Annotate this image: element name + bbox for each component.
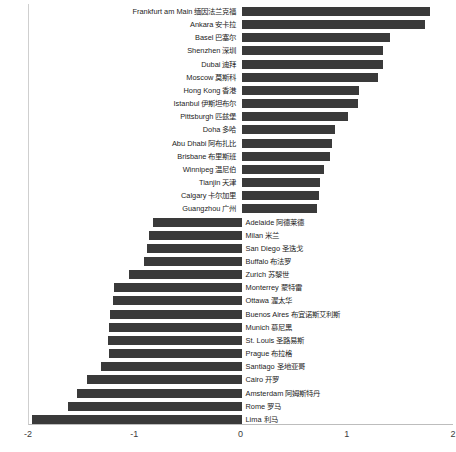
bar-row: Buffalo 布法罗 bbox=[29, 254, 453, 267]
bar bbox=[77, 389, 242, 398]
bar-row: Munich 慕尼黑 bbox=[29, 320, 453, 333]
bar bbox=[144, 257, 242, 266]
bar bbox=[109, 349, 242, 358]
bar-row: Basel 巴塞尔 bbox=[29, 30, 453, 43]
bar bbox=[242, 139, 332, 148]
plot-area: Frankfurt am Main 缅因法兰克福Ankara 安卡拉Basel … bbox=[28, 4, 453, 425]
x-tick-label: -1 bbox=[130, 429, 138, 439]
bar-row: Abu Dhabi 阿布扎比 bbox=[29, 136, 453, 149]
bar bbox=[242, 152, 330, 161]
bar-row: Cairo 开罗 bbox=[29, 372, 453, 385]
bar-row: Tianjin 天津 bbox=[29, 175, 453, 188]
bar bbox=[242, 112, 348, 121]
bar bbox=[108, 336, 242, 345]
bar-row: Frankfurt am Main 缅因法兰克福 bbox=[29, 4, 453, 17]
bar bbox=[242, 165, 325, 174]
bar bbox=[242, 46, 383, 55]
bar bbox=[242, 99, 359, 108]
bar-row: San Diego 圣迭戈 bbox=[29, 241, 453, 254]
bar-row: Doha 多哈 bbox=[29, 122, 453, 135]
bar bbox=[109, 323, 242, 332]
bar bbox=[242, 125, 336, 134]
bar-row: Zurich 苏黎世 bbox=[29, 267, 453, 280]
bar-row: Calgary 卡尔加里 bbox=[29, 188, 453, 201]
bar-row: Prague 布拉格 bbox=[29, 346, 453, 359]
bar-row: Monterrey 蒙特雷 bbox=[29, 280, 453, 293]
bar-row: Milan 米兰 bbox=[29, 228, 453, 241]
bar bbox=[242, 73, 378, 82]
bar-row: Buenos Aires 布宜诺斯艾利斯 bbox=[29, 307, 453, 320]
x-tick-label: -2 bbox=[24, 429, 32, 439]
bar-row: Lima 利马 bbox=[29, 412, 453, 425]
bar-row: Santiago 圣地亚哥 bbox=[29, 359, 453, 372]
bar-row: Rome 罗马 bbox=[29, 399, 453, 412]
bar-row: Dubai 迪拜 bbox=[29, 57, 453, 70]
bar bbox=[110, 310, 242, 319]
bar bbox=[242, 178, 321, 187]
bar bbox=[129, 270, 242, 279]
bar bbox=[101, 362, 241, 371]
bar-row: St. Louis 圣路易斯 bbox=[29, 333, 453, 346]
bar-row: Moscow 莫斯科 bbox=[29, 70, 453, 83]
bar bbox=[242, 60, 383, 69]
bar-row: Istanbul 伊斯坦布尔 bbox=[29, 96, 453, 109]
bar bbox=[147, 244, 242, 253]
bar-rows: Frankfurt am Main 缅因法兰克福Ankara 安卡拉Basel … bbox=[29, 4, 453, 424]
bar bbox=[242, 7, 430, 16]
bar-row: Shenzhen 深圳 bbox=[29, 43, 453, 56]
x-axis: -2-1012 bbox=[28, 426, 453, 448]
bar-category-label: Lima 利马 bbox=[246, 412, 278, 427]
bar-row: Ankara 安卡拉 bbox=[29, 17, 453, 30]
bar-row: Pittsburgh 匹兹堡 bbox=[29, 109, 453, 122]
bar-row: Brisbane 布里斯班 bbox=[29, 149, 453, 162]
bar-row: Guangzhou 广州 bbox=[29, 201, 453, 214]
bar bbox=[242, 204, 317, 213]
bar bbox=[242, 86, 360, 95]
bar-row: Ottawa 渥太华 bbox=[29, 293, 453, 306]
x-tick-label: 1 bbox=[344, 429, 349, 439]
bar bbox=[87, 375, 241, 384]
bar bbox=[153, 218, 241, 227]
bar-row: Winnipeg 温尼伯 bbox=[29, 162, 453, 175]
bar bbox=[242, 191, 320, 200]
bar-row: Amsterdam 阿姆斯特丹 bbox=[29, 386, 453, 399]
bar bbox=[242, 33, 391, 42]
bar bbox=[68, 402, 241, 411]
bar bbox=[113, 296, 242, 305]
x-tick-label: 0 bbox=[238, 429, 243, 439]
x-tick-label: 2 bbox=[450, 429, 455, 439]
bar bbox=[114, 283, 242, 292]
bar bbox=[32, 415, 241, 424]
bar bbox=[149, 231, 241, 240]
bar bbox=[242, 20, 426, 29]
bar-row: Adelaide 阿德莱德 bbox=[29, 215, 453, 228]
bar-row: Hong Kong 香港 bbox=[29, 83, 453, 96]
